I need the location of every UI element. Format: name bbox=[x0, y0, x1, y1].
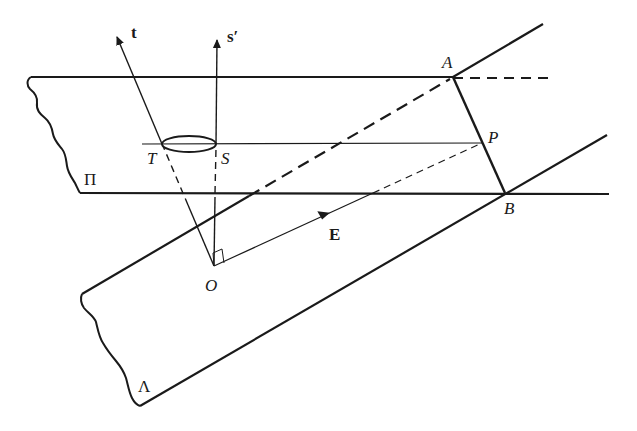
label-vector-t: t bbox=[131, 24, 137, 41]
line-oe-hidden bbox=[373, 143, 482, 193]
label-point-p: P bbox=[488, 129, 498, 146]
vector-t bbox=[117, 37, 162, 144]
line-tsp bbox=[142, 143, 482, 144]
vector-s-prime bbox=[216, 40, 217, 144]
vector-t-hidden bbox=[163, 146, 188, 205]
label-vector-e: E bbox=[329, 226, 340, 243]
label-plane-pi: Π bbox=[84, 171, 96, 188]
label-point-b: B bbox=[504, 200, 514, 217]
plane-pi bbox=[28, 77, 610, 194]
diagram-svg bbox=[0, 0, 637, 431]
line-oe-visible bbox=[214, 193, 373, 266]
plane-lambda-upper-edge-visible bbox=[82, 196, 249, 294]
label-plane-lambda: Λ bbox=[138, 378, 150, 395]
plane-lambda-upper-edge-hidden bbox=[249, 79, 450, 196]
label-point-a: A bbox=[442, 54, 452, 71]
vector-e-arrowhead bbox=[317, 209, 331, 220]
vector-t-lower bbox=[188, 205, 214, 266]
vector-s-prime-hidden bbox=[215, 148, 216, 193]
label-point-s: S bbox=[221, 150, 230, 167]
plane-lambda-torn-edge bbox=[81, 294, 140, 406]
plane-pi-bottom-edge bbox=[80, 193, 609, 194]
vector-s-prime-lower bbox=[214, 197, 215, 266]
diagram-canvas: t s′ A P T S Π B E O Λ bbox=[0, 0, 637, 431]
plane-pi-torn-edge bbox=[28, 77, 81, 193]
plane-lambda-upper-edge-far bbox=[453, 24, 543, 77]
label-point-t: T bbox=[147, 150, 156, 167]
label-point-o: O bbox=[205, 277, 217, 294]
plane-lambda-lower-edge bbox=[140, 135, 607, 406]
plane-lambda bbox=[81, 24, 607, 406]
label-vector-s-prime: s′ bbox=[227, 28, 238, 45]
